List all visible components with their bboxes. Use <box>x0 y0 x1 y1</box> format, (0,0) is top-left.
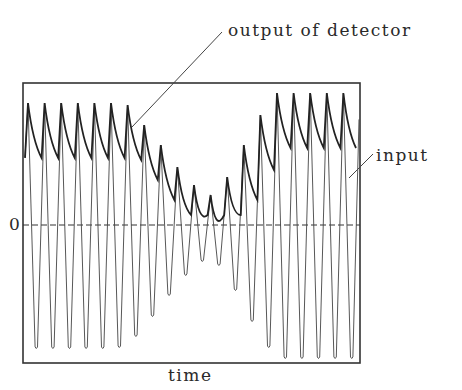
output-leader-line <box>132 32 222 127</box>
input-leader-line <box>349 154 373 178</box>
detector-diagram <box>0 0 462 390</box>
time-axis-label: time <box>168 365 212 385</box>
output-label: output of detector <box>228 20 412 40</box>
zero-axis-label: 0 <box>9 214 21 234</box>
input-label: input <box>376 145 429 165</box>
